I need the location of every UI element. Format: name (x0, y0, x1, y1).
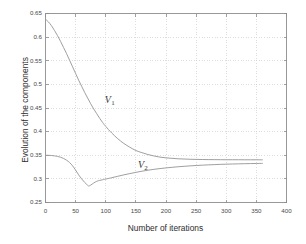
y-tick-label: 0.25 (18, 199, 42, 205)
series-label-v1: V1 (105, 95, 115, 105)
x-tick-label: 300 (214, 208, 238, 214)
y-axis-title: Evolution of the components (20, 25, 30, 195)
data-series (46, 19, 263, 186)
x-tick-label: 150 (124, 208, 148, 214)
x-axis-title: Number of iterations (45, 223, 286, 233)
y-tick-label: 0.65 (18, 10, 42, 16)
x-tick-label: 200 (154, 208, 178, 214)
x-tick-label: 50 (64, 208, 88, 214)
x-tick-label: 0 (34, 208, 58, 214)
series-label-subscript: 2 (144, 164, 148, 172)
series-label-subscript: 1 (111, 99, 115, 107)
chart-figure: 0.250.30.350.40.450.50.550.60.65 0501001… (0, 0, 306, 244)
x-tick-label: 100 (94, 208, 118, 214)
x-tick-label: 400 (275, 208, 299, 214)
series-label-letter: V (105, 94, 111, 105)
x-tick-label: 350 (244, 208, 268, 214)
series-label-v2: V2 (138, 160, 148, 170)
x-tick-label: 250 (184, 208, 208, 214)
grid-lines (46, 14, 287, 203)
